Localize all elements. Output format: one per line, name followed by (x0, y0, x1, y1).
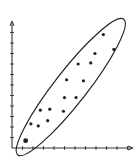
data-point (39, 109, 42, 112)
scatter-plot (0, 0, 138, 157)
data-point (112, 48, 115, 51)
axes (10, 21, 133, 150)
data-point (63, 96, 66, 99)
data-points (23, 33, 115, 143)
data-point (48, 108, 51, 111)
data-point (82, 79, 85, 82)
data-point (77, 62, 80, 65)
enclosing-ellipse (5, 9, 137, 157)
data-point (46, 119, 49, 122)
data-point (65, 78, 68, 81)
ellipse-outline (5, 9, 137, 157)
data-point (102, 33, 105, 36)
data-point (93, 52, 96, 55)
data-point (23, 138, 28, 143)
data-point (29, 122, 32, 125)
data-point (62, 110, 65, 113)
data-point (74, 96, 77, 99)
data-point (37, 124, 40, 127)
data-point (89, 61, 92, 64)
